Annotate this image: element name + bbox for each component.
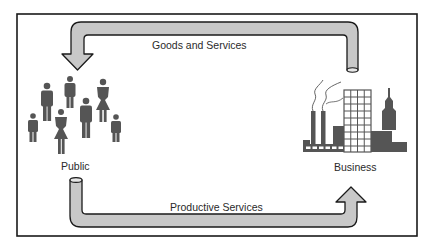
- node-label-public: Public: [61, 160, 90, 172]
- flow-label-goods-services: Goods and Services: [152, 39, 247, 51]
- node-label-business: Business: [334, 161, 377, 173]
- flow-label-productive-services: Productive Services: [170, 201, 263, 213]
- pipe-cap-icon: [70, 178, 82, 183]
- pipe-cap-icon: [347, 68, 358, 72]
